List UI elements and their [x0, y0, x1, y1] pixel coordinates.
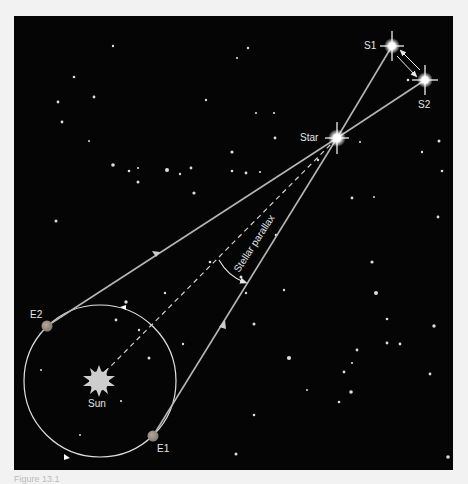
- parallax-diagram: Stellar parallax Sun E2 E1 Star S1 S2: [0, 0, 468, 484]
- star-label: Star: [300, 132, 319, 143]
- earth-e1: [148, 431, 159, 442]
- e1-label: E1: [157, 443, 170, 454]
- shift-arrow-1: [402, 52, 420, 70]
- star-icon: [325, 122, 349, 154]
- s2-star-icon: [412, 65, 438, 95]
- shift-arrow-2: [397, 56, 415, 75]
- orbit-arrow-bottom: [64, 454, 70, 460]
- figure-caption: Figure 13.1: [14, 474, 60, 484]
- s2-label: S2: [418, 99, 431, 110]
- s1-label: S1: [364, 40, 377, 51]
- sun-icon: [83, 365, 115, 397]
- earth-e2: [42, 321, 53, 332]
- s1-star-icon: [380, 31, 404, 61]
- sun-label: Sun: [88, 398, 106, 409]
- e2-label: E2: [30, 309, 43, 320]
- sun-star-dashed-line: [105, 138, 337, 372]
